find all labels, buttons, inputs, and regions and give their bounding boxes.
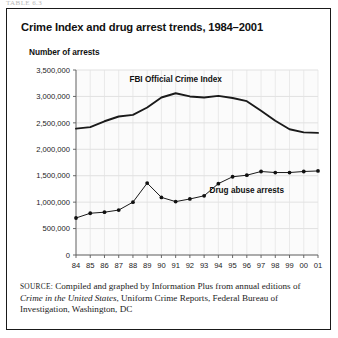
y-tick-label: 3,500,000 [36, 66, 70, 75]
data-point [302, 170, 306, 174]
clipped-header-text: TABLE 6.3 [0, 0, 338, 7]
data-point [259, 170, 263, 174]
x-tick-label: 94 [214, 261, 222, 270]
y-tick-label: 1,000,000 [36, 198, 70, 207]
data-point [202, 194, 206, 198]
data-point [273, 171, 277, 175]
data-point [117, 208, 121, 212]
x-tick-label: 97 [257, 261, 265, 270]
x-tick-label: 88 [129, 261, 137, 270]
x-tick-label: 89 [143, 261, 151, 270]
data-point [288, 171, 292, 175]
data-point [103, 210, 107, 214]
figure-page: TABLE 6.3 Crime Index and drug arrest tr… [0, 0, 338, 338]
data-point [188, 197, 192, 201]
y-tick-label: 3,000,000 [36, 92, 70, 101]
x-tick-label: 96 [243, 261, 251, 270]
x-tick-label: 90 [157, 261, 165, 270]
source-italic-title: Crime in the United States [20, 293, 116, 303]
data-point [145, 181, 149, 185]
y-tick-label: 1,500,000 [36, 171, 70, 180]
line-chart: 0500,0001,000,0001,500,0002,000,0002,500… [7, 9, 332, 275]
x-tick-label: 92 [186, 261, 194, 270]
x-tick-label: 91 [171, 261, 179, 270]
x-tick-label: 01 [314, 261, 322, 270]
data-point [316, 169, 320, 173]
y-tick-label: 2,000,000 [36, 145, 70, 154]
x-tick-label: 85 [86, 261, 94, 270]
x-tick-label: 87 [114, 261, 122, 270]
x-tick-label: 98 [271, 261, 279, 270]
chart-plot-area: 0500,0001,000,0001,500,0002,000,0002,500… [7, 9, 332, 275]
series-annotation-label: Drug abuse arrests [210, 186, 285, 195]
x-tick-label: 86 [100, 261, 108, 270]
figure-frame: Crime Index and drug arrest trends, 1984… [6, 8, 331, 330]
data-point [245, 173, 249, 177]
x-tick-label: 84 [72, 261, 80, 270]
data-point [74, 216, 78, 220]
x-tick-label: 93 [200, 261, 208, 270]
source-text-before: Compiled and graphed by Information Plus… [53, 281, 301, 291]
data-point [131, 200, 135, 204]
y-tick-label: 0 [66, 251, 70, 260]
y-tick-label: 2,500,000 [36, 119, 70, 128]
data-point [88, 211, 92, 215]
data-point [174, 200, 178, 204]
divider [14, 274, 324, 275]
x-tick-label: 00 [300, 261, 308, 270]
data-point [160, 195, 164, 199]
x-tick-label: 99 [285, 261, 293, 270]
y-tick-label: 500,000 [43, 224, 70, 233]
x-tick-label: 95 [228, 261, 236, 270]
data-point [231, 175, 235, 179]
series-annotation-label: FBI Official Crime Index [129, 75, 222, 84]
source-label: SOURCE: [20, 282, 53, 291]
source-note: SOURCE: Compiled and graphed by Informat… [20, 281, 320, 316]
